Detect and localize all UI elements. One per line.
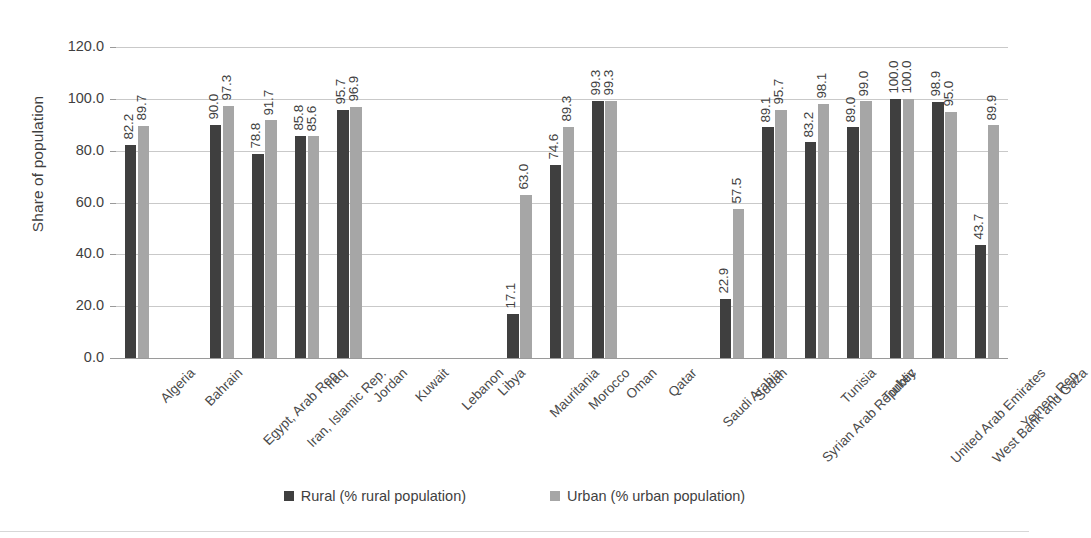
bar-urban[interactable]	[350, 107, 362, 358]
bar-rural[interactable]	[337, 110, 349, 358]
bar-urban[interactable]	[860, 101, 872, 358]
bar-value-label: 89.3	[559, 96, 573, 121]
bar-value-label: 22.9	[716, 268, 730, 293]
bar-rural[interactable]	[720, 299, 732, 358]
bar-value-label: 17.1	[504, 283, 518, 308]
legend-label-rural: Rural (% rural population)	[301, 488, 466, 504]
bar-urban[interactable]	[138, 126, 150, 358]
bar-rural[interactable]	[805, 142, 817, 358]
bar-value-label: 57.5	[729, 179, 743, 204]
x-axis-line	[116, 358, 1008, 359]
bar-rural[interactable]	[295, 136, 307, 358]
x-axis-label: Turkey	[880, 366, 919, 405]
plot-area: 82.289.790.097.378.891.785.885.695.796.9…	[116, 47, 1008, 358]
y-axis-tick-label: 100.0	[40, 91, 104, 106]
bar-rural[interactable]	[210, 125, 222, 358]
page-bottom-divider	[0, 531, 1029, 532]
bar-urban[interactable]	[818, 104, 830, 358]
x-axis-label: Sudan	[752, 366, 790, 404]
bar-urban[interactable]	[563, 127, 575, 358]
legend-swatch-rural-icon	[284, 491, 294, 501]
bar-urban[interactable]	[223, 106, 235, 358]
bar-rural[interactable]	[507, 314, 519, 358]
x-axis-label: Kuwait	[413, 366, 452, 405]
legend-item-rural[interactable]: Rural (% rural population)	[284, 488, 466, 504]
bar-urban[interactable]	[733, 209, 745, 358]
legend-label-urban: Urban (% urban population)	[567, 488, 745, 504]
x-axis-label: Bahrain	[202, 366, 245, 409]
y-axis-tick-label: 60.0	[40, 195, 104, 210]
bar-value-label: 97.3	[219, 75, 233, 100]
bar-urban[interactable]	[605, 101, 617, 358]
bar-value-label: 96.9	[347, 76, 361, 101]
bar-value-label: 85.6	[304, 106, 318, 131]
bar-value-label: 89.9	[984, 95, 998, 120]
bar-rural[interactable]	[975, 245, 987, 358]
bar-value-label: 74.6	[546, 134, 560, 159]
bar-value-label: 78.8	[249, 123, 263, 148]
x-axis-label: Algeria	[159, 366, 199, 406]
bar-urban[interactable]	[520, 195, 532, 358]
bar-urban[interactable]	[775, 110, 787, 358]
y-axis-tick-label: 80.0	[40, 143, 104, 158]
bar-rural[interactable]	[592, 101, 604, 358]
bar-rural[interactable]	[252, 154, 264, 358]
bar-value-label: 43.7	[971, 214, 985, 239]
bar-rural[interactable]	[125, 145, 137, 358]
bar-urban[interactable]	[945, 112, 957, 358]
bar-value-label: 100.0	[899, 61, 913, 94]
y-axis-tick-label: 20.0	[40, 298, 104, 313]
y-axis-tick-label: 0.0	[40, 350, 104, 365]
bar-value-label: 83.2	[801, 112, 815, 137]
bar-urban[interactable]	[903, 99, 915, 358]
y-axis-tick-label: 120.0	[40, 39, 104, 54]
bar-rural[interactable]	[550, 165, 562, 358]
bar-value-label: 89.7	[134, 95, 148, 120]
bar-value-label: 63.0	[517, 164, 531, 189]
bar-value-label: 91.7	[262, 90, 276, 115]
legend-item-urban[interactable]: Urban (% urban population)	[550, 488, 745, 504]
bar-urban[interactable]	[308, 136, 320, 358]
chart-legend: Rural (% rural population) Urban (% urba…	[0, 488, 1029, 504]
bar-value-label: 95.0	[942, 81, 956, 106]
gridline	[116, 47, 1008, 48]
bar-value-label: 99.3	[602, 70, 616, 95]
bar-rural[interactable]	[762, 127, 774, 358]
bar-rural[interactable]	[890, 99, 902, 358]
bar-urban[interactable]	[988, 125, 1000, 358]
bar-value-label: 99.0	[857, 71, 871, 96]
x-axis-label: Qatar	[666, 366, 700, 400]
y-axis-tick-label: 40.0	[40, 246, 104, 261]
bar-value-label: 95.7	[772, 80, 786, 105]
x-axis-label: Oman	[624, 366, 660, 402]
bar-value-label: 89.0	[844, 97, 858, 122]
bar-value-label: 98.1	[814, 73, 828, 98]
bar-urban[interactable]	[265, 120, 277, 358]
bar-rural[interactable]	[847, 127, 859, 358]
bar-rural[interactable]	[932, 102, 944, 358]
legend-swatch-urban-icon	[550, 491, 560, 501]
